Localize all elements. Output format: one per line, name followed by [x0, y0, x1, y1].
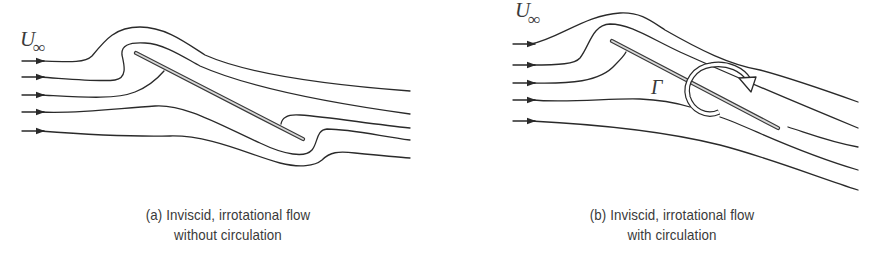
streamline [531, 121, 858, 190]
caption-a-line1: (a) Inviscid, irrotational flow [99, 205, 357, 225]
streamlines-a [40, 27, 410, 166]
inflow-arrows-a [22, 61, 44, 131]
streamline [40, 71, 164, 97]
caption-panel-a: (a) Inviscid, irrotational flow without … [99, 205, 357, 245]
circulation-gamma-label: Γ [650, 76, 664, 98]
caption-a-line2: without circulation [99, 225, 357, 245]
streamline [788, 127, 858, 147]
streamline [281, 115, 410, 128]
streamline [40, 27, 410, 91]
flat-plate-a [136, 53, 303, 139]
streamline [720, 117, 858, 170]
caption-b-line1: (b) Inviscid, irrotational flow [543, 205, 801, 225]
caption-b-line2: with circulation [543, 225, 801, 245]
streamline [40, 106, 410, 155]
streamline [531, 52, 626, 83]
infinity-subscript-a: ∞ [33, 38, 45, 57]
circulation-arrow-icon [687, 64, 756, 114]
streamline [531, 99, 690, 107]
caption-panel-b: (b) Inviscid, irrotational flow with cir… [543, 205, 801, 245]
streamline [40, 131, 410, 166]
panel-a-without-circulation: U ∞ [20, 27, 410, 166]
streamline [40, 43, 410, 114]
streamlines-b [531, 13, 858, 190]
panel-b-with-circulation: U ∞ [513, 0, 858, 190]
infinity-subscript-b: ∞ [528, 10, 540, 29]
